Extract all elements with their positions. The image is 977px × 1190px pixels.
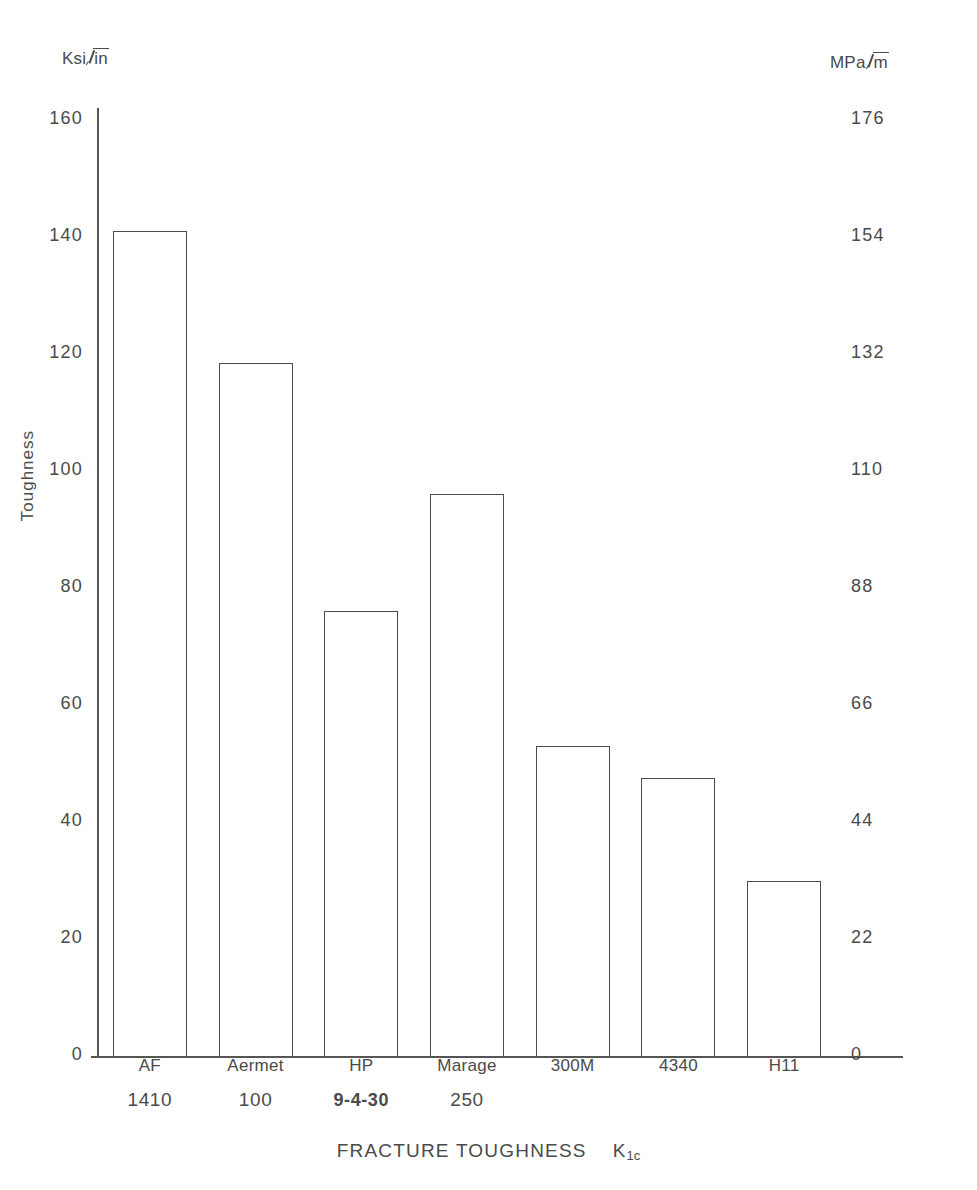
category-label-line1: 300M xyxy=(520,1056,626,1076)
category-label-line2: 1410 xyxy=(97,1086,203,1114)
x-axis-category-label: 300M xyxy=(520,1056,626,1086)
bar xyxy=(113,231,187,1056)
y-axis-tick-label-left: 60 xyxy=(61,693,83,714)
x-axis-category-label: H11 xyxy=(731,1056,837,1086)
y-axis-tick-label-right: 44 xyxy=(851,810,873,831)
x-axis-title-main: FRACTURE TOUGHNESS xyxy=(337,1140,587,1161)
sqrt-icon: m xyxy=(866,52,889,73)
right-axis-unit-prefix: MPa xyxy=(830,53,866,72)
category-label-line2: 9-4-30 xyxy=(308,1086,414,1114)
left-axis-unit-label: Ksiin xyxy=(62,48,109,69)
sqrt-icon: in xyxy=(86,48,109,69)
right-axis-unit-radicand: m xyxy=(873,52,889,73)
left-axis-unit-prefix: Ksi xyxy=(62,49,86,68)
bar xyxy=(430,494,504,1056)
x-axis-category-label: HP9-4-30 xyxy=(308,1056,414,1114)
y-axis-tick-label-right: 176 xyxy=(851,108,885,129)
x-axis-title: FRACTURE TOUGHNESSK1c xyxy=(0,1140,977,1163)
x-axis-category-label: 4340 xyxy=(626,1056,732,1086)
bar xyxy=(536,746,610,1056)
y-axis-tick-label-right: 88 xyxy=(851,576,873,597)
y-axis-tick-label-right: 66 xyxy=(851,693,873,714)
y-axis-tick-label-right: 132 xyxy=(851,342,885,363)
plot-area: 160140120100806040200 176154132110886644… xyxy=(97,120,837,1056)
y-axis-tick-label-left: 80 xyxy=(61,576,83,597)
bar xyxy=(641,778,715,1056)
category-label-line2: 100 xyxy=(203,1086,309,1114)
x-axis-category-label: Aermet100 xyxy=(203,1056,309,1114)
y-axis-tick-label-right: 22 xyxy=(851,927,873,948)
y-axis-tick-label-left: 20 xyxy=(61,927,83,948)
category-label-line1: H11 xyxy=(731,1056,837,1076)
left-axis-unit-radicand: in xyxy=(93,48,109,69)
x-axis-title-symbol-subscript: 1c xyxy=(627,1148,641,1163)
x-axis-category-label: Marage250 xyxy=(414,1056,520,1114)
y-axis-tick-label-left: 120 xyxy=(49,342,83,363)
y-axis-tick-label-right: 110 xyxy=(851,459,883,480)
x-axis-title-symbol: K1c xyxy=(613,1140,641,1161)
x-axis-category-label: AF1410 xyxy=(97,1056,203,1114)
fracture-toughness-bar-chart: Ksiin MPam Toughness 1601401201008060402… xyxy=(0,0,977,1190)
category-label-line2: 250 xyxy=(414,1086,520,1114)
bar xyxy=(324,611,398,1056)
bar xyxy=(747,881,821,1057)
category-label-line1: AF xyxy=(97,1056,203,1076)
y-axis-tick-label-left: 0 xyxy=(72,1044,83,1065)
category-label-line1: Marage xyxy=(414,1056,520,1076)
y-axis-tick-label-right: 154 xyxy=(851,225,885,246)
bar-series xyxy=(97,120,837,1056)
y-axis-tick-label-left: 160 xyxy=(49,108,83,129)
category-label-line1: HP xyxy=(308,1056,414,1076)
y-axis-tick-label-left: 140 xyxy=(49,225,83,246)
y-axis-tick-label-left: 40 xyxy=(61,810,83,831)
right-axis-unit-label: MPam xyxy=(830,52,889,73)
y-axis-tick-label-right: 0 xyxy=(851,1044,862,1065)
category-label-line1: 4340 xyxy=(626,1056,732,1076)
y-axis-title: Toughness xyxy=(18,430,38,521)
bar xyxy=(219,363,293,1056)
y-axis-tick-label-left: 100 xyxy=(49,459,83,480)
category-label-line1: Aermet xyxy=(203,1056,309,1076)
